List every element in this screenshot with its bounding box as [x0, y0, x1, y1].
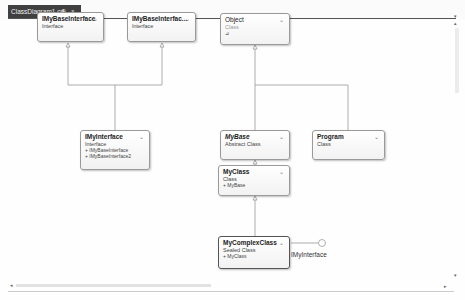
member-item: + MyClass: [223, 253, 285, 259]
class-box-imybaseinterface[interactable]: IMyBaseInterface Interface ⌄: [37, 12, 104, 42]
class-box-imyinterface[interactable]: IMyInterface Interface + IMyBaseInterfac…: [80, 130, 150, 170]
class-box-mybase[interactable]: MyBase Abstract Class ⌄: [220, 130, 290, 160]
chevron-down-icon[interactable]: ⌄: [279, 239, 284, 246]
scroll-down-icon[interactable]: ▾: [454, 272, 457, 278]
chevron-down-icon[interactable]: ⌄: [185, 15, 190, 22]
chevron-down-icon[interactable]: ⌄: [93, 15, 98, 22]
box-title: IMyBaseInterfac...: [132, 15, 191, 22]
member-item: + MyBase: [223, 182, 285, 188]
class-box-mycomplexclass[interactable]: MyComplexClass Sealed Class + MyClass ⌄: [218, 236, 290, 269]
box-kind: Class: [317, 141, 380, 147]
lollipop-interface-label[interactable]: IMyInterface: [291, 251, 327, 258]
chevron-down-icon[interactable]: ⌄: [374, 133, 379, 140]
scroll-right-icon[interactable]: ▸: [444, 283, 447, 289]
box-title: IMyInterface: [85, 133, 145, 140]
scroll-left-icon[interactable]: ◂: [10, 282, 13, 288]
box-title: MyBase: [225, 133, 285, 140]
bottom-border: [8, 291, 454, 292]
class-box-object[interactable]: Object Class ⊿ ⌄: [220, 13, 290, 45]
chevron-down-icon[interactable]: ⌄: [279, 168, 284, 175]
horizontal-scrollbar[interactable]: ◂ ▸: [8, 283, 448, 288]
horizontal-scroll-thumb[interactable]: [16, 284, 211, 287]
class-box-myclass[interactable]: MyClass Class + MyBase ⌄: [218, 165, 290, 196]
vertical-scrollbar[interactable]: ▴ ▾: [454, 20, 460, 282]
box-title: MyComplexClass: [223, 239, 285, 246]
member-item: + IMyBaseInterface2: [85, 153, 145, 159]
box-kind: Interface: [42, 23, 99, 29]
box-title: Object: [225, 16, 285, 23]
expand-icon[interactable]: ⊿: [225, 30, 285, 36]
chevron-down-icon[interactable]: ⌄: [139, 133, 144, 140]
vertical-scroll-thumb[interactable]: [455, 28, 459, 93]
scroll-up-icon[interactable]: ▴: [454, 20, 457, 26]
box-kind: Abstract Class: [225, 141, 285, 147]
box-title: IMyBaseInterface: [42, 15, 99, 22]
chevron-down-icon[interactable]: ⌄: [279, 16, 284, 23]
class-box-program[interactable]: Program Class ⌄: [312, 130, 385, 160]
box-title: MyClass: [223, 168, 285, 175]
box-kind: Interface: [132, 23, 191, 29]
chevron-down-icon[interactable]: ⌄: [279, 133, 284, 140]
box-title: Program: [317, 133, 380, 140]
class-box-imybaseinterface2[interactable]: IMyBaseInterfac... Interface ⌄: [127, 12, 196, 42]
